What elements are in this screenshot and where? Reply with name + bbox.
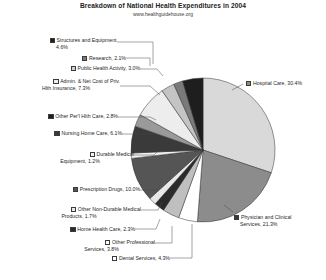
swatch-icon <box>53 79 58 84</box>
label-admin-net-cost-line2: Hlth Insurance, 7.3% <box>12 85 120 92</box>
swatch-icon <box>73 187 78 192</box>
label-prescription-drugs: Prescription Drugs, 10.0% <box>4 186 140 193</box>
label-research: Research, 2.1% <box>10 55 126 62</box>
swatch-icon <box>48 114 53 119</box>
swatch-icon <box>90 152 95 157</box>
swatch-icon <box>105 240 110 245</box>
chart-canvas: Breakdown of National Health Expenditure… <box>0 0 326 280</box>
leader-other-prof <box>155 226 172 243</box>
label-nursing-home-care: Nursing Home Care, 6.1% <box>4 130 122 137</box>
swatch-icon <box>71 66 76 71</box>
pie-slices <box>131 78 275 222</box>
swatch-icon <box>71 207 76 212</box>
label-dental-services: Dental Services, 4.3% <box>60 255 170 262</box>
label-other-non-durable-line2: Products, 1.7% <box>20 213 138 220</box>
label-physician-clinical-line2: Services, 21.3% <box>240 221 326 228</box>
swatch-icon <box>112 256 117 261</box>
label-home-health-care: Home Health Care, 2.3% <box>18 226 135 233</box>
label-structures-equipment-line2: 4.6% <box>6 44 118 51</box>
label-hospital-care: Hospital Care, 30.4% <box>246 80 326 87</box>
label-durable-medical-line2: Equipment, 1.2% <box>26 158 134 165</box>
swatch-icon <box>234 215 239 220</box>
leader-admin <box>120 86 160 95</box>
swatch-icon <box>70 227 75 232</box>
swatch-icon <box>54 131 59 136</box>
swatch-icon <box>50 38 55 43</box>
swatch-icon <box>246 81 251 86</box>
label-other-professional-line2: Services, 3.8% <box>48 246 155 253</box>
leader-public-health <box>140 69 163 76</box>
leader-home-health <box>135 219 160 229</box>
leader-dental <box>170 224 192 258</box>
label-public-health: Public Health Activity, 3.0% <box>6 65 140 72</box>
swatch-icon <box>82 56 87 61</box>
label-other-personal-hlth: Other Per'l Hlth Care, 2.8% <box>4 113 118 120</box>
